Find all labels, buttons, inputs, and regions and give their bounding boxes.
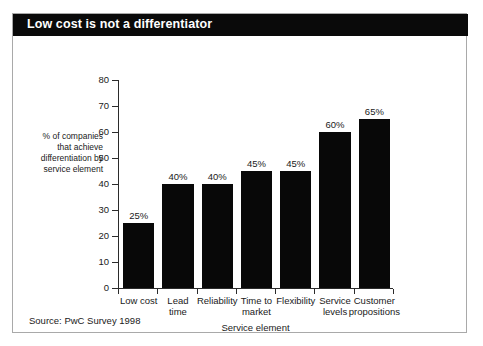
- y-axis-tick: [112, 236, 118, 237]
- page-title: Low cost is not a differentiator: [27, 17, 212, 31]
- y-axis-tick: [112, 132, 118, 133]
- y-axis-line: [118, 80, 119, 289]
- bar-value-label: 45%: [272, 159, 319, 169]
- x-axis-tick: [393, 289, 394, 294]
- bar-value-label: 40%: [194, 172, 241, 182]
- y-axis-tick-label: 10: [75, 257, 109, 267]
- bar: [359, 119, 390, 288]
- x-axis-tick: [236, 289, 237, 294]
- plot-area: 01020304050607080 25%40%40%45%45%60%65% …: [13, 36, 468, 334]
- bar-value-label: 60%: [311, 120, 358, 130]
- bar: [280, 171, 311, 288]
- bar-value-label: 65%: [351, 107, 398, 117]
- y-axis-tick-label: 40: [75, 179, 109, 189]
- y-axis-title-line: that achieve: [21, 142, 103, 153]
- x-axis-tick: [314, 289, 315, 294]
- y-axis-tick: [112, 262, 118, 263]
- y-axis-tick-label: 30: [75, 205, 109, 215]
- y-axis-tick-label: 20: [75, 231, 109, 241]
- y-axis-tick-label: 0: [75, 283, 109, 293]
- x-axis-tick-label-line: time: [149, 306, 206, 317]
- bar: [123, 223, 154, 288]
- bar: [319, 132, 350, 288]
- source-note: Source: PwC Survey 1998: [29, 315, 140, 326]
- x-axis-tick: [275, 289, 276, 294]
- y-axis-title-line: % of companies: [21, 131, 103, 142]
- bar: [162, 184, 193, 288]
- x-axis-tick: [118, 289, 119, 294]
- bar: [241, 171, 272, 288]
- x-axis-title: Service element: [118, 322, 393, 333]
- y-axis-title-line: service element: [21, 164, 103, 175]
- bar-value-label: 25%: [115, 211, 162, 221]
- chart-title-bar: Low cost is not a differentiator: [13, 14, 468, 36]
- chart-figure: Low cost is not a differentiator 0102030…: [12, 13, 467, 333]
- x-axis-tick-label-line: propositions: [346, 306, 403, 317]
- y-axis-tick-label: 80: [75, 75, 109, 85]
- x-axis-tick-label-line: Customer: [346, 295, 403, 306]
- x-axis-tick: [157, 289, 158, 294]
- x-axis-line: [118, 288, 393, 289]
- x-axis-tick: [354, 289, 355, 294]
- y-axis-tick: [112, 158, 118, 159]
- y-axis-tick: [112, 80, 118, 81]
- y-axis-title: % of companiesthat achievedifferentiatio…: [21, 131, 103, 175]
- x-axis-tick-label: Customerpropositions: [346, 295, 403, 317]
- bar: [202, 184, 233, 288]
- y-axis-title-line: differentiation by: [21, 153, 103, 164]
- x-axis-tick-label-line: market: [228, 306, 285, 317]
- y-axis-tick: [112, 184, 118, 185]
- x-axis-tick: [197, 289, 198, 294]
- y-axis-tick: [112, 106, 118, 107]
- y-axis-tick-label: 70: [75, 101, 109, 111]
